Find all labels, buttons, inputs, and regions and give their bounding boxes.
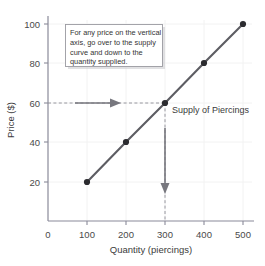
annotation-line-2: axis, go over to the supply [70, 38, 156, 47]
y-tick-label-40: 40 [29, 137, 40, 148]
x-tick-label-0: 0 [45, 229, 50, 240]
data-point-500-100[interactable] [240, 21, 246, 27]
x-tick-label-200: 200 [118, 229, 134, 240]
y-tick-label-80: 80 [29, 58, 40, 69]
x-tick-label-400: 400 [196, 229, 212, 240]
annotation-callout: For any price on the vertical axis, go o… [66, 25, 166, 70]
x-tick-label-100: 100 [79, 229, 95, 240]
annotation-line-4: quantity supplied. [70, 57, 128, 66]
y-tick-label-60: 60 [29, 98, 40, 109]
annotation-line-3: curve and down to the [70, 48, 143, 57]
chart-canvas: 20 40 60 80 100 0 100 200 300 400 500 Qu… [0, 0, 265, 266]
data-point-300-60[interactable] [162, 100, 168, 106]
x-tick-label-500: 500 [235, 229, 251, 240]
y-tick-label-100: 100 [24, 19, 40, 30]
x-axis-title: Quantity (piercings) [110, 244, 192, 255]
annotation-line-1: For any price on the vertical [70, 28, 162, 37]
data-point-400-80[interactable] [201, 60, 207, 66]
x-tick-label-300: 300 [157, 229, 173, 240]
supply-curve-figure: 20 40 60 80 100 0 100 200 300 400 500 Qu… [0, 0, 265, 266]
y-tick-label-20: 20 [29, 177, 40, 188]
data-point-200-40[interactable] [123, 139, 129, 145]
y-axis-title: Price ($) [5, 102, 16, 138]
data-point-100-20[interactable] [84, 179, 90, 185]
supply-curve-label: Supply of Piercings [172, 105, 250, 115]
